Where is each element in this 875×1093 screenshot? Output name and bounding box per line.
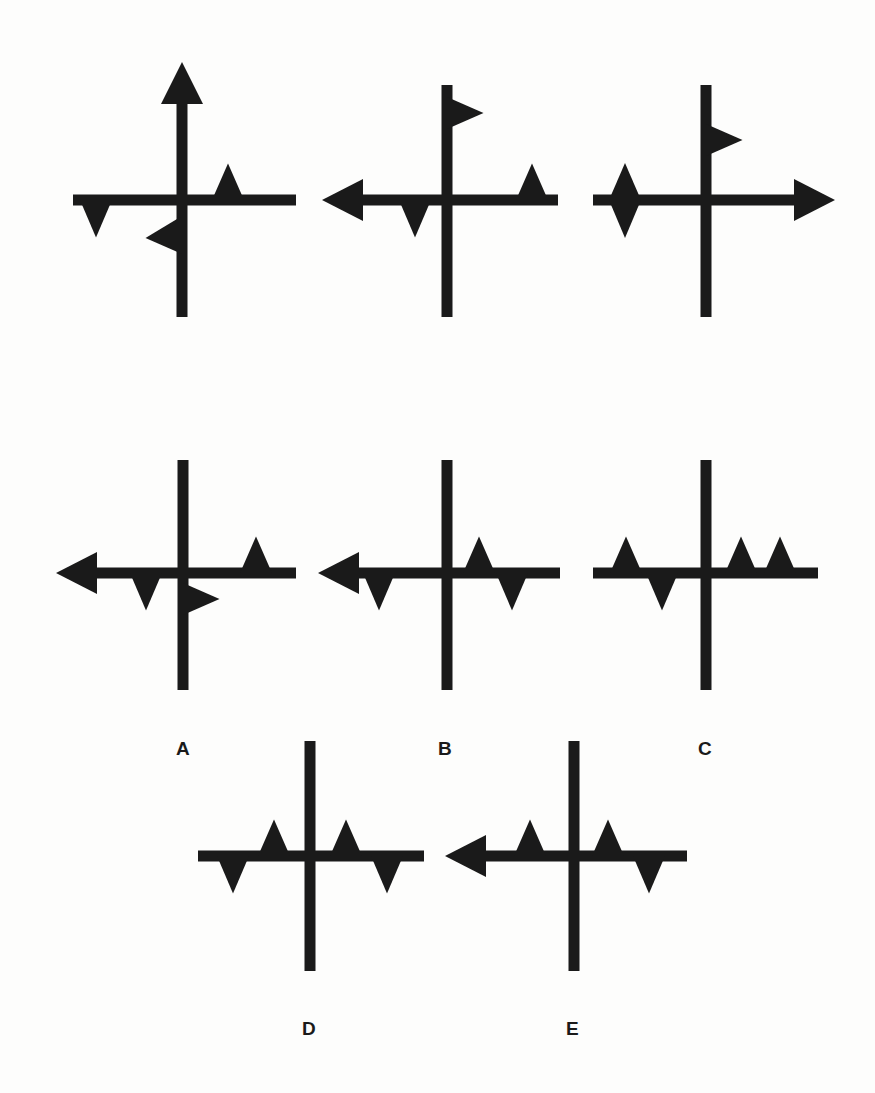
triangle-up-icon: [463, 537, 495, 574]
diamond-icon: [609, 163, 641, 238]
option-label-c: C: [698, 738, 712, 760]
option-e: [445, 741, 687, 971]
arrowhead-up-icon: [161, 62, 203, 104]
stimulus-2: [322, 85, 558, 317]
vertical-axis: [177, 100, 188, 317]
triangle-up-icon: [514, 820, 546, 857]
vertical-axis: [701, 85, 712, 317]
option-d: [198, 741, 424, 971]
triangle-up-icon: [592, 820, 624, 857]
spatial-reasoning-figure: [0, 0, 875, 1093]
flag-right-icon: [447, 97, 484, 129]
option-a: [56, 460, 296, 690]
vertical-axis: [442, 460, 453, 690]
arrowhead-left-icon: [318, 552, 359, 594]
stimulus-3: [593, 85, 835, 317]
triangle-up-icon: [212, 164, 244, 201]
vertical-axis: [701, 460, 712, 690]
option-b: [318, 460, 560, 690]
triangle-down-icon: [80, 200, 112, 238]
option-label-e: E: [566, 1018, 579, 1040]
arrowhead-left-icon: [322, 179, 363, 221]
vertical-axis: [305, 741, 316, 971]
arrowhead-right-icon: [794, 179, 835, 221]
stimulus-1: [73, 62, 296, 317]
triangle-up-icon: [725, 537, 757, 574]
flag-right-icon: [183, 583, 220, 615]
triangle-down-icon: [633, 856, 665, 894]
triangle-up-icon: [240, 537, 272, 574]
triangle-up-icon: [516, 164, 548, 201]
arrowhead-left-icon: [445, 835, 486, 877]
option-c: [593, 460, 818, 690]
flag-right-icon: [706, 124, 743, 156]
vertical-axis: [569, 741, 580, 971]
flag-left-icon: [146, 216, 183, 254]
triangle-down-icon: [399, 200, 431, 238]
option-label-a: A: [176, 738, 190, 760]
vertical-axis: [178, 460, 189, 690]
triangle-down-icon: [363, 573, 395, 611]
option-label-b: B: [438, 738, 452, 760]
triangle-up-icon: [764, 537, 796, 574]
triangle-down-icon: [217, 856, 249, 894]
triangle-down-icon: [646, 573, 678, 611]
option-label-d: D: [302, 1018, 316, 1040]
triangle-up-icon: [610, 537, 642, 574]
triangle-down-icon: [130, 573, 162, 611]
arrowhead-left-icon: [56, 552, 97, 594]
triangle-up-icon: [258, 820, 290, 857]
triangle-down-icon: [496, 573, 528, 611]
triangle-down-icon: [371, 856, 403, 894]
triangle-up-icon: [330, 820, 362, 857]
